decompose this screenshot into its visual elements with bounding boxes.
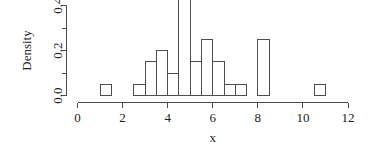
x-axis-tick-label: 4 xyxy=(164,110,171,125)
y-axis-tick-label: 0.0 xyxy=(50,87,65,103)
histogram-bar xyxy=(258,39,269,95)
histogram-bar xyxy=(100,84,111,95)
histogram-bar xyxy=(190,62,201,96)
y-axis-tick-label: 0.2 xyxy=(50,42,65,58)
histogram-bar xyxy=(145,62,156,96)
x-axis-tick-label: 0 xyxy=(74,110,81,125)
x-axis-title: x xyxy=(210,130,217,145)
histogram-bar xyxy=(134,84,145,95)
y-axis-title: Density xyxy=(19,30,34,71)
plot-canvas: 0.00.20.4 024681012 xDensity xyxy=(0,0,373,168)
y-axis: 0.00.20.4 xyxy=(50,0,67,104)
histogram-bar xyxy=(224,84,235,95)
bars-group xyxy=(100,0,325,96)
histogram-plot: 0.00.20.4 024681012 xDensity xyxy=(0,0,373,168)
y-axis-tick-label: 0.4 xyxy=(50,0,65,14)
histogram-bar xyxy=(235,84,246,95)
histogram-bar xyxy=(201,39,212,95)
x-axis-tick-label: 6 xyxy=(210,110,217,125)
histogram-bar xyxy=(156,51,167,96)
histogram-bar xyxy=(168,73,179,96)
x-axis-tick-label: 8 xyxy=(255,110,262,125)
histogram-bar xyxy=(213,62,224,96)
x-axis-tick-label: 12 xyxy=(342,110,355,125)
x-axis-tick-label: 2 xyxy=(119,110,126,125)
axis-titles: xDensity xyxy=(19,30,217,145)
x-axis-tick-label: 10 xyxy=(296,110,309,125)
histogram-bar xyxy=(314,84,325,95)
x-axis: 024681012 xyxy=(74,103,354,125)
histogram-bar xyxy=(179,0,190,96)
